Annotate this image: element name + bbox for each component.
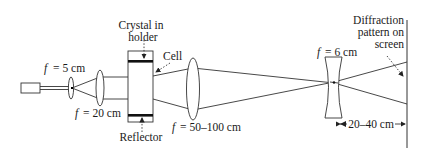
screen-label-3: screen (375, 38, 405, 50)
converging-beam (193, 62, 407, 110)
lens3-f-symbol: f (172, 121, 177, 134)
cell-label: Cell (163, 50, 182, 62)
svg-text:f = 5 cm: f = 5 cm (44, 62, 85, 75)
lens-f6-concave (325, 57, 342, 118)
crystal-label-2: holder (128, 31, 158, 43)
lens1-f-symbol: f (44, 62, 49, 75)
svg-text:f = 6 cm: f = 6 cm (317, 46, 357, 59)
reflector-bar (128, 114, 153, 117)
lens-f20 (96, 70, 104, 106)
reflector-label: Reflector (120, 131, 163, 143)
lens3-f-value: = 50–100 cm (180, 121, 241, 133)
lens4-f-symbol: f (317, 46, 322, 59)
cell-pointer (156, 63, 170, 72)
collimated-beam (101, 77, 128, 99)
laser-source (21, 83, 72, 93)
distance-label: 20–40 cm (348, 118, 394, 130)
lens2-f-symbol: f (75, 107, 80, 120)
svg-text:f = 20 cm: f = 20 cm (75, 107, 121, 120)
screen-pointer (387, 56, 403, 76)
optical-diagram: f = 5 cm f = 20 cm Crystal in holder Cel… (0, 0, 424, 157)
lens2-f-value: = 20 cm (83, 107, 121, 119)
svg-text:f = 50–100 cm: f = 50–100 cm (172, 121, 241, 134)
cell (128, 51, 153, 122)
lens4-f-value: = 6 cm (325, 46, 357, 58)
lens-f50-100 (187, 58, 200, 120)
lens1-f-value: = 5 cm (53, 62, 85, 74)
crystal-bar (128, 60, 153, 63)
screen-label-1: Diffraction (353, 14, 404, 26)
